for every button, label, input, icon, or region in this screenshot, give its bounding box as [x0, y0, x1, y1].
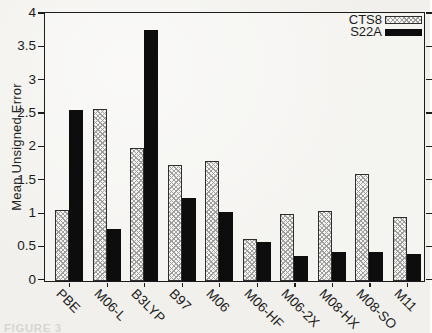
y-axis-tick-left: [38, 213, 44, 214]
x-axis-label-m08-hx: M08-HX: [316, 286, 362, 332]
bar-cts8-b3lyp: [130, 148, 144, 281]
bar-s22a-m06: [219, 212, 233, 281]
y-axis-tick-left: [38, 279, 44, 280]
bar-chart-plot-area: Mean Unsigned Error CTS8S22A 00.511.522.…: [44, 12, 425, 282]
y-axis-tick-label: 3: [4, 73, 36, 87]
x-axis-label-m06: M06: [204, 286, 233, 315]
y-axis-tick-right: [426, 12, 432, 13]
x-axis-label-m06-2x: M06-2X: [279, 286, 323, 330]
bar-s22a-b97: [182, 198, 196, 281]
clipped-caption-text: FIGURE 3: [4, 322, 62, 333]
x-axis-label-m06-hf: M06-HF: [241, 286, 286, 331]
x-axis-label-pbe: PBE: [53, 286, 83, 316]
x-axis-label-m08-so: M08-SO: [354, 286, 400, 332]
bar-cts8-m08-so: [355, 174, 369, 281]
bar-s22a-m08-so: [369, 252, 383, 281]
bar-s22a-m08-hx: [332, 252, 346, 281]
y-axis-tick-right: [426, 179, 432, 180]
legend-swatch-solid: [385, 29, 422, 36]
y-axis-tick-right: [426, 246, 432, 247]
x-axis-tick: [332, 283, 333, 288]
y-axis-tick-right: [426, 79, 432, 80]
x-axis-tick: [257, 283, 258, 288]
y-axis-tick-right: [426, 146, 432, 147]
y-axis-tick-right: [426, 46, 432, 47]
bar-cts8-m06-hf: [243, 239, 257, 281]
bar-cts8-m06-2x: [280, 214, 294, 281]
y-axis-tick-right: [426, 279, 432, 280]
x-axis-tick: [294, 283, 295, 288]
x-axis-label-m11: M11: [391, 286, 419, 314]
y-axis-tick-label: 4: [4, 6, 36, 20]
bar-s22a-m06-hf: [257, 242, 271, 281]
y-axis-tick-left: [38, 79, 44, 80]
bar-s22a-b3lyp: [144, 30, 158, 281]
x-axis-tick: [407, 283, 408, 288]
y-axis-tick-right: [426, 213, 432, 214]
bar-cts8-m06: [205, 161, 219, 281]
y-axis-tick-label: 0.5: [4, 239, 36, 253]
x-axis-label-b3lyp: B3LYP: [128, 286, 168, 326]
legend-label-s22a: S22A: [350, 26, 382, 38]
bar-cts8-b97: [168, 165, 182, 281]
bar-cts8-m08-hx: [318, 211, 332, 281]
bar-s22a-m06-l: [107, 229, 121, 281]
x-axis-tick: [369, 283, 370, 288]
y-axis-tick-left: [38, 246, 44, 247]
chart-legend: CTS8S22A: [349, 14, 422, 38]
legend-swatch-crosshatch: [385, 16, 422, 24]
bar-s22a-m11: [407, 254, 421, 281]
y-axis-tick-left: [38, 46, 44, 47]
y-axis-tick-left: [38, 146, 44, 147]
y-axis-tick-label: 1: [4, 206, 36, 220]
x-axis-tick: [144, 283, 145, 288]
bar-s22a-pbe: [69, 110, 83, 281]
y-axis-tick-left: [38, 12, 44, 13]
bar-cts8-m06-l: [93, 109, 107, 281]
legend-row-s22a: S22A: [349, 26, 422, 38]
y-axis-tick-label: 2: [4, 139, 36, 153]
y-axis-tick-left: [38, 112, 44, 113]
x-axis-label-b97: B97: [166, 286, 194, 314]
y-axis-tick-label: 2.5: [4, 106, 36, 120]
x-axis-tick: [182, 283, 183, 288]
bar-s22a-m06-2x: [294, 256, 308, 281]
bar-cts8-pbe: [55, 210, 69, 281]
x-axis-tick: [69, 283, 70, 288]
y-axis-tick-left: [38, 179, 44, 180]
bar-cts8-m11: [393, 217, 407, 281]
x-axis-tick: [107, 283, 108, 288]
x-axis-label-m06-l: M06-L: [91, 286, 129, 324]
x-axis-tick: [219, 283, 220, 288]
y-axis-tick-label: 1.5: [4, 173, 36, 187]
y-axis-tick-right: [426, 112, 432, 113]
y-axis-tick-label: 0: [4, 273, 36, 287]
y-axis-tick-label: 3.5: [4, 39, 36, 53]
